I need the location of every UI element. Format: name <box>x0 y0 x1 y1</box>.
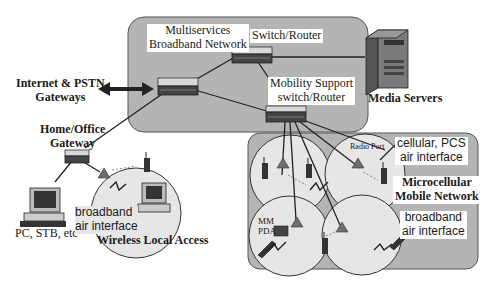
wla-air-interface-line2: air interface <box>75 220 138 234</box>
media-server-tower <box>366 30 408 95</box>
wireless-local-access-label: Wireless Local Access <box>97 234 209 248</box>
cellular-air-interface-line2: air interface <box>397 151 466 165</box>
switch-router-label: Switch/Router <box>250 29 323 43</box>
core-network-label: Multiservices Broadband Network <box>147 24 249 52</box>
radio-port-label: Radio Port <box>350 142 384 151</box>
wla-air-interface-line1: broadband <box>75 206 138 220</box>
wla-computer <box>138 183 170 212</box>
mm-pda-line2: PDA <box>258 226 276 236</box>
media-servers-label: Media Servers <box>368 92 442 106</box>
microcellular-label-line1: Microcellular <box>395 176 479 190</box>
micro-broadband-air-line1: broadband <box>402 211 465 225</box>
pc-label: PC, STB, etc <box>15 227 78 241</box>
microcellular-network-label: Microcellular Mobile Network <box>393 176 481 204</box>
mm-pda-line1: MM <box>258 216 276 226</box>
mobility-switch-device <box>266 106 306 122</box>
home-gateway-device <box>65 150 89 163</box>
core-network-label-line2: Broadband Network <box>149 38 247 52</box>
pc-workstation <box>20 188 66 227</box>
core-network-label-line1: Multiservices <box>149 24 247 38</box>
micro-broadband-air-interface-label: broadband air interface <box>400 211 467 239</box>
network-architecture-diagram: Multiservices Broadband Network Switch/R… <box>0 0 490 282</box>
micro-cell-bottom-right <box>322 195 402 275</box>
mobility-switch-label-line2: switch/Router <box>270 91 353 105</box>
microcellular-label-line2: Mobile Network <box>395 190 479 204</box>
mobility-switch-label: Mobility Support switch/Router <box>268 77 355 105</box>
wla-handset <box>144 152 150 172</box>
cellular-air-interface-line1: cellular, PCS <box>397 137 466 151</box>
home-gateway-label-line1: Home/Office <box>40 123 105 137</box>
internet-gateways-label-line2: Gateways <box>16 91 105 105</box>
micro-broadband-air-line2: air interface <box>402 225 465 239</box>
core-router-device <box>158 78 198 95</box>
mm-pda-label: MM PDA <box>258 216 276 237</box>
home-gateway-label: Home/Office Gateway <box>40 123 105 151</box>
cellular-air-interface-label: cellular, PCS air interface <box>395 137 468 165</box>
internet-gateways-label: Internet & PSTN Gateways <box>16 77 105 105</box>
mobility-switch-label-line1: Mobility Support <box>270 77 353 91</box>
internet-gateways-label-line1: Internet & PSTN <box>16 77 105 91</box>
home-gateway-label-line2: Gateway <box>40 137 105 151</box>
wla-air-interface-label: broadband air interface <box>75 206 138 234</box>
